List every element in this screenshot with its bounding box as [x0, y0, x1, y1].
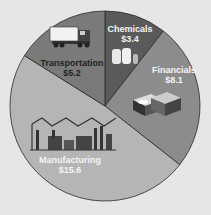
slice-value: $15.6 [39, 165, 101, 175]
slice-label-manufacturing: Manufacturing $15.6 [39, 155, 101, 175]
slice-value: $3.4 [107, 34, 152, 44]
slice-value: $5.2 [40, 68, 103, 78]
slice-value: $8.1 [152, 75, 196, 85]
slice-label-chemicals: Chemicals $3.4 [107, 24, 152, 44]
slice-label-financials: Financials $8.1 [152, 65, 196, 85]
slice-name: Transportation [40, 58, 103, 68]
slice-name: Financials [152, 65, 196, 75]
pie-chart [0, 0, 211, 215]
slice-label-transportation: Transportation $5.2 [40, 58, 103, 78]
slice-name: Manufacturing [39, 155, 101, 165]
slice-name: Chemicals [107, 24, 152, 34]
